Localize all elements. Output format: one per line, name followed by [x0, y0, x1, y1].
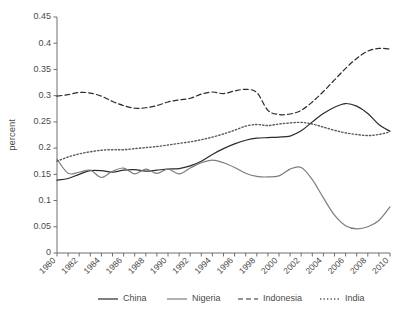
x-tick-label: 1986	[104, 255, 125, 276]
y-tick-label: 0.45	[33, 11, 51, 21]
x-tick-label: 1980	[37, 255, 58, 276]
x-axis: 1980198219841986198819901992199419961998…	[37, 253, 391, 276]
line-chart: 00.050.10.150.20.250.30.350.40.45 198019…	[0, 0, 403, 316]
y-tick-label: 0.3	[38, 90, 51, 100]
x-tick-label: 1996	[215, 255, 236, 276]
legend-label-china: China	[123, 293, 147, 303]
y-tick-label: 0.15	[33, 169, 51, 179]
y-tick-label: 0.1	[38, 195, 51, 205]
chart-canvas: 00.050.10.150.20.250.30.350.40.45 198019…	[0, 0, 403, 316]
y-axis-title: percent	[6, 119, 17, 151]
series-line-nigeria	[57, 159, 390, 229]
y-tick-label: 0.35	[33, 64, 51, 74]
chart-legend: ChinaNigeriaIndonesiaIndia	[98, 293, 365, 303]
legend-label-india: India	[345, 293, 365, 303]
x-tick-label: 2010	[370, 255, 391, 276]
x-tick-label: 1982	[59, 255, 80, 276]
series-line-china	[57, 104, 390, 181]
y-tick-label: 0.25	[33, 116, 51, 126]
series-line-india	[57, 122, 390, 161]
x-tick-label: 2008	[348, 255, 369, 276]
x-tick-label: 2004	[303, 255, 324, 276]
x-tick-label: 1994	[192, 255, 213, 276]
y-tick-label: 0.4	[38, 38, 51, 48]
y-tick-label: 0.05	[33, 221, 51, 231]
x-tick-label: 2000	[259, 255, 280, 276]
x-tick-label: 1990	[148, 255, 169, 276]
x-tick-label: 2002	[281, 255, 302, 276]
x-tick-label: 1992	[170, 255, 191, 276]
y-tick-label: 0.2	[38, 142, 51, 152]
x-tick-label: 1998	[237, 255, 258, 276]
legend-label-indonesia: Indonesia	[263, 293, 302, 303]
x-tick-label: 2006	[326, 255, 347, 276]
x-tick-label: 1984	[81, 255, 102, 276]
series-lines	[57, 48, 390, 229]
y-axis: 00.050.10.150.20.250.30.350.40.45	[33, 11, 57, 257]
x-tick-label: 1988	[126, 255, 147, 276]
legend-label-nigeria: Nigeria	[192, 293, 221, 303]
